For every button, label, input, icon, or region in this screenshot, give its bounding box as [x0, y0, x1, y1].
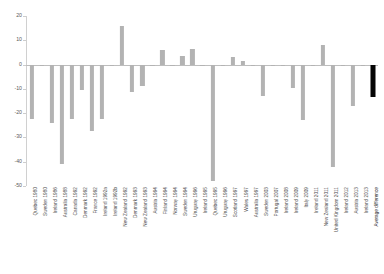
bar — [180, 56, 184, 65]
x-tick-label: Uruguay 1996 — [194, 187, 199, 273]
bar-slot — [258, 16, 268, 186]
bar — [90, 65, 94, 132]
bar-slot — [218, 16, 228, 186]
bar — [281, 65, 285, 67]
bar-chart: 20100-10-20-30-40-50 Quebec 1980Sweden 1… — [0, 0, 384, 274]
bar-slot — [87, 16, 97, 186]
bar-slot — [228, 16, 238, 186]
x-tick-label: Ireland 2012 — [345, 187, 350, 273]
bar — [230, 57, 234, 64]
bar — [40, 65, 44, 66]
bar-slot — [278, 16, 288, 186]
bar-slot — [47, 16, 57, 186]
x-tick-label: Ireland 1992a — [104, 187, 109, 273]
bar-slot — [248, 16, 258, 186]
bar-slot — [187, 16, 197, 186]
bar-slot — [208, 16, 218, 186]
bar-slot — [328, 16, 338, 186]
x-tick-label: Italy 2009 — [305, 187, 310, 273]
bar — [220, 65, 224, 66]
bar-slot — [117, 16, 127, 186]
bar — [361, 65, 365, 66]
bar — [271, 65, 275, 66]
y-tick-mark — [23, 89, 26, 90]
x-tick-label: Denmark 1992 — [84, 187, 89, 273]
x-tick-label: Sweden 2003 — [265, 187, 270, 273]
x-tick-label: Sweden 1994 — [184, 187, 189, 273]
bar — [160, 50, 164, 65]
x-tick-label: United Kingdom 2011 — [335, 187, 340, 273]
bar — [251, 65, 255, 66]
bar — [341, 65, 345, 66]
x-tick-label: Australia 1988 — [64, 187, 69, 273]
y-tick-label: -30 — [0, 134, 22, 139]
x-tick-label: Uruguay 1996 — [224, 187, 229, 273]
bar — [80, 65, 84, 91]
bar — [120, 26, 124, 65]
x-axis-labels: Quebec 1980Sweden 1980Ireland 1986Austra… — [27, 187, 378, 274]
bar-slot — [238, 16, 248, 186]
bar — [30, 65, 34, 120]
x-tick-label: Ireland 2008 — [285, 187, 290, 273]
bar-slot — [368, 16, 378, 186]
x-tick-label: France 1992 — [94, 187, 99, 273]
bar-slot — [348, 16, 358, 186]
y-tick-label: -20 — [0, 110, 22, 115]
x-tick-label: Portugal 2007 — [275, 187, 280, 273]
y-tick-mark — [23, 137, 26, 138]
x-tick-label: Ireland 1995 — [204, 187, 209, 273]
x-tick-label: Wales 1997 — [245, 187, 250, 273]
bar — [60, 65, 64, 165]
y-tick-mark — [23, 16, 26, 17]
y-tick-label: -10 — [0, 86, 22, 91]
x-tick-label: Quebec 1995 — [214, 187, 219, 273]
bar-slot — [137, 16, 147, 186]
bar-slot — [298, 16, 308, 186]
bar — [70, 65, 74, 120]
x-tick-label: New Zealand 2011 — [325, 187, 330, 273]
y-tick-label: -50 — [0, 183, 22, 188]
x-tick-label: Denmark 1993 — [134, 187, 139, 273]
bar-slot — [147, 16, 157, 186]
bar — [311, 65, 315, 66]
bar — [261, 65, 265, 97]
bar — [110, 65, 114, 66]
bar — [50, 65, 54, 123]
x-tick-label: Canada 1992 — [74, 187, 79, 273]
bar — [331, 65, 335, 167]
x-tick-label: Austria 2013 — [355, 187, 360, 273]
bar — [150, 65, 154, 66]
bar-slot — [268, 16, 278, 186]
x-tick-label: Austria 1994 — [154, 187, 159, 273]
bar-series — [27, 16, 378, 186]
bar — [291, 65, 295, 88]
x-tick-label: New Zealand 1993 — [144, 187, 149, 273]
bar-slot — [27, 16, 37, 186]
bar-slot — [107, 16, 117, 186]
bar-slot — [308, 16, 318, 186]
bar-slot — [57, 16, 67, 186]
bar — [200, 65, 204, 66]
y-tick-mark — [23, 186, 26, 187]
bar-slot — [167, 16, 177, 186]
bar-slot — [358, 16, 368, 186]
bar — [321, 45, 325, 64]
bar — [130, 65, 134, 93]
bar-slot — [77, 16, 87, 186]
bar — [140, 65, 144, 87]
bar-slot — [37, 16, 47, 186]
x-tick-label: Australia 1997 — [255, 187, 260, 273]
bar-slot — [197, 16, 207, 186]
bar-slot — [338, 16, 348, 186]
x-tick-label: Average difference — [375, 187, 380, 273]
bar-slot — [318, 16, 328, 186]
bar — [241, 61, 245, 65]
y-tick-label: 0 — [0, 62, 22, 67]
bar-slot — [177, 16, 187, 186]
x-tick-label: New Zealand 1992 — [124, 187, 129, 273]
bar — [301, 65, 305, 121]
bar-slot — [67, 16, 77, 186]
x-tick-label: Norway 1994 — [174, 187, 179, 273]
x-tick-label: Scotland 1997 — [234, 187, 239, 273]
y-tick-mark — [23, 113, 26, 114]
